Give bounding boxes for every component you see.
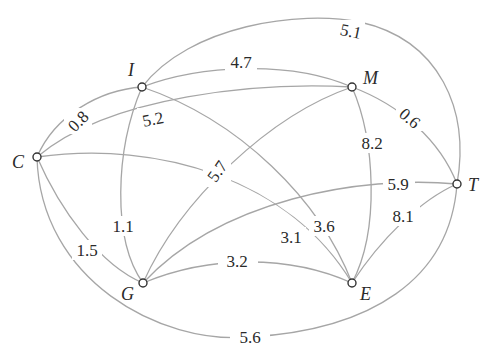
weight-label-I-M: 4.7 [225, 52, 257, 72]
weight-label-C-I: 0.8 [64, 107, 93, 135]
svg-text:3.6: 3.6 [313, 217, 334, 236]
node-C [33, 153, 41, 161]
svg-text:3.2: 3.2 [226, 252, 247, 271]
svg-text:5.6: 5.6 [239, 328, 260, 347]
weight-label-M-T: 0.6 [395, 104, 424, 132]
weight-label-G-M: 5.7 [203, 155, 232, 187]
weight-label-I-T: 5.1 [337, 20, 365, 43]
svg-text:8.2: 8.2 [361, 134, 382, 153]
weight-label-I-E: 3.6 [309, 216, 339, 236]
svg-text:4.7: 4.7 [230, 53, 252, 72]
svg-text:3.1: 3.1 [280, 228, 301, 247]
svg-text:8.1: 8.1 [392, 207, 413, 226]
weight-label-E-T: 8.1 [388, 206, 420, 226]
node-E [348, 279, 356, 287]
svg-text:5.9: 5.9 [387, 175, 408, 194]
weight-label-C-E: 3.1 [276, 227, 306, 247]
graph-diagram: 5.1 4.7 0.8 0.6 5.2 1.1 3.6 5.7 8.2 3.1 … [0, 0, 492, 356]
node-label-E: E [359, 284, 371, 304]
weight-label-C-G: 1.5 [72, 240, 102, 260]
node-label-I: I [127, 60, 135, 80]
node-label-M: M [362, 68, 379, 88]
svg-text:1.5: 1.5 [76, 241, 97, 260]
node-I [138, 83, 146, 91]
node-label-G: G [121, 284, 134, 304]
weight-label-C-T: 5.6 [230, 327, 270, 347]
weight-label-I-G: 1.1 [108, 216, 136, 236]
edge-I-T [142, 18, 460, 184]
node-M [348, 83, 356, 91]
weight-label-G-T: 5.9 [383, 174, 415, 194]
weight-label-G-E: 3.2 [218, 251, 258, 271]
weight-label-C-M: 5.2 [137, 108, 169, 131]
node-T [453, 180, 461, 188]
weight-label-M-E: 8.2 [358, 133, 388, 153]
node-label-T: T [468, 175, 480, 195]
node-label-C: C [12, 152, 25, 172]
node-G [139, 279, 147, 287]
edge-C-E [37, 153, 352, 283]
svg-text:1.1: 1.1 [112, 217, 133, 236]
